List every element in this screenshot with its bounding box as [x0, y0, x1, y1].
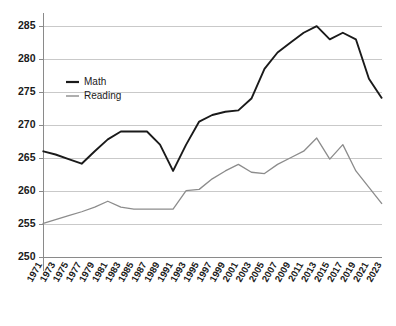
legend-label-reading: Reading — [84, 90, 121, 101]
y-tick-label-250: 250 — [18, 250, 36, 262]
y-tick-label-280: 280 — [18, 52, 36, 64]
chart-canvas: 250255260265270275280285 197119731975197… — [0, 0, 396, 326]
y-tick-label-275: 275 — [18, 85, 36, 97]
y-tick-label-270: 270 — [18, 118, 36, 130]
y-tick-label-255: 255 — [18, 217, 36, 229]
y-tick-label-260: 260 — [18, 184, 36, 196]
line-chart: 250255260265270275280285 197119731975197… — [0, 0, 396, 326]
y-tick-label-265: 265 — [18, 151, 36, 163]
legend-label-math: Math — [84, 76, 106, 87]
y-tick-label-285: 285 — [18, 19, 36, 31]
